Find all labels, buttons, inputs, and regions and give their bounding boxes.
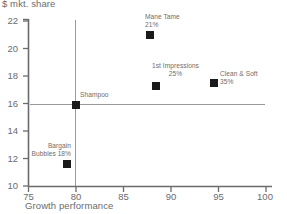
point-label-mane-tame-name: Mane Tame xyxy=(145,13,180,21)
y-tick-label-10: 10 xyxy=(2,180,18,191)
point-label-1st-impressions: 1st Impressions 25% xyxy=(148,62,203,77)
data-point-bargain-bubbles[interactable] xyxy=(63,160,71,168)
y-tick-label-22: 22 xyxy=(2,15,18,26)
x-tick-label-75: 75 xyxy=(19,191,39,202)
scatter-chart: $ mkt. share Growth performance 22 20 18… xyxy=(0,0,287,214)
x-tick-label-90: 90 xyxy=(161,191,181,202)
data-point-clean-and-soft[interactable] xyxy=(210,79,218,87)
point-label-1st-impressions-pct: 25% xyxy=(148,70,203,78)
x-tick-label-100: 100 xyxy=(255,191,275,202)
y-tick-label-14: 14 xyxy=(2,125,18,136)
point-label-mane-tame: Mane Tame 21% xyxy=(145,13,180,28)
point-label-bargain-bubbles: Bargain Bubbles 18% xyxy=(18,142,71,157)
y-tick-label-20: 20 xyxy=(2,43,18,54)
y-tick-label-18: 18 xyxy=(2,70,18,81)
x-tick-label-85: 85 xyxy=(114,191,134,202)
point-label-clean-and-soft: Clean & Soft 35% xyxy=(220,70,258,85)
y-tick-label-16: 16 xyxy=(2,98,18,109)
x-tick-label-95: 95 xyxy=(209,191,229,202)
point-label-clean-and-soft-pct: 35% xyxy=(220,78,258,86)
plot-area xyxy=(0,0,287,214)
point-label-bargain-bubbles-line2: Bubbles 18% xyxy=(18,150,71,158)
point-label-shampoo: Shampoo xyxy=(80,91,109,99)
y-tick-label-12: 12 xyxy=(2,153,18,164)
data-point-mane-tame[interactable] xyxy=(146,31,154,39)
data-point-shampoo[interactable] xyxy=(72,101,80,109)
x-tick-label-80: 80 xyxy=(66,191,86,202)
point-label-1st-impressions-name: 1st Impressions xyxy=(148,62,203,70)
data-point-1st-impressions[interactable] xyxy=(152,82,160,90)
point-label-clean-and-soft-name: Clean & Soft xyxy=(220,70,258,78)
y-axis-title: $ mkt. share xyxy=(2,0,55,9)
point-label-bargain-bubbles-line1: Bargain xyxy=(18,142,71,150)
point-label-mane-tame-pct: 21% xyxy=(145,21,180,29)
